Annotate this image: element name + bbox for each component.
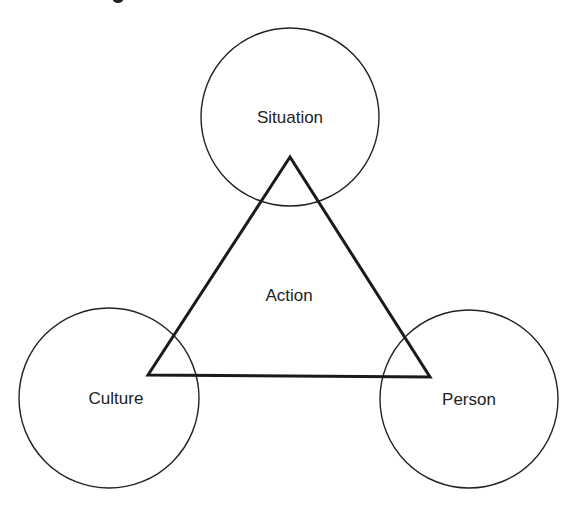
diagram-canvas [0,0,575,506]
situation-label: Situation [257,108,323,128]
action-triangle [148,157,430,377]
person-label: Person [442,390,496,410]
culture-label: Culture [89,389,144,409]
action-label: Action [265,286,312,306]
